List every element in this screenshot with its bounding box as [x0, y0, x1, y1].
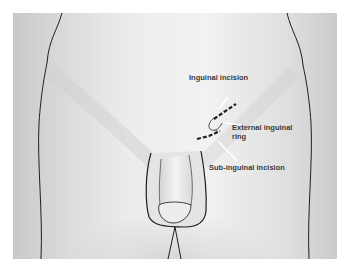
anatomy-figure: x Inguinal incision External inguinal ri… [13, 13, 337, 259]
external-ring-label-line2: ring [232, 132, 246, 141]
sub-inguinal-incision-label: Sub-inguinal incision [209, 163, 285, 172]
inguinal-incision-label: Inguinal incision [189, 73, 248, 82]
ring-x-marker: x [215, 127, 218, 136]
penis-outline [159, 155, 192, 205]
groin-illustration [13, 13, 337, 259]
external-ring-label-line1: External inguinal [232, 123, 292, 132]
